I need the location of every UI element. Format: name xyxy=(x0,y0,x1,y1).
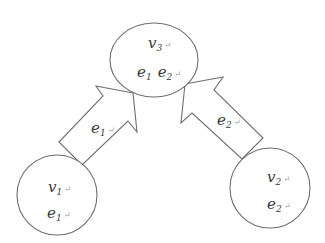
diagram-canvas: v3↵ e1e2↵ v1↵ e1↵ v2↵ e2↵ e1↵ e2↵ xyxy=(0,0,325,243)
node-v2 xyxy=(230,148,310,228)
